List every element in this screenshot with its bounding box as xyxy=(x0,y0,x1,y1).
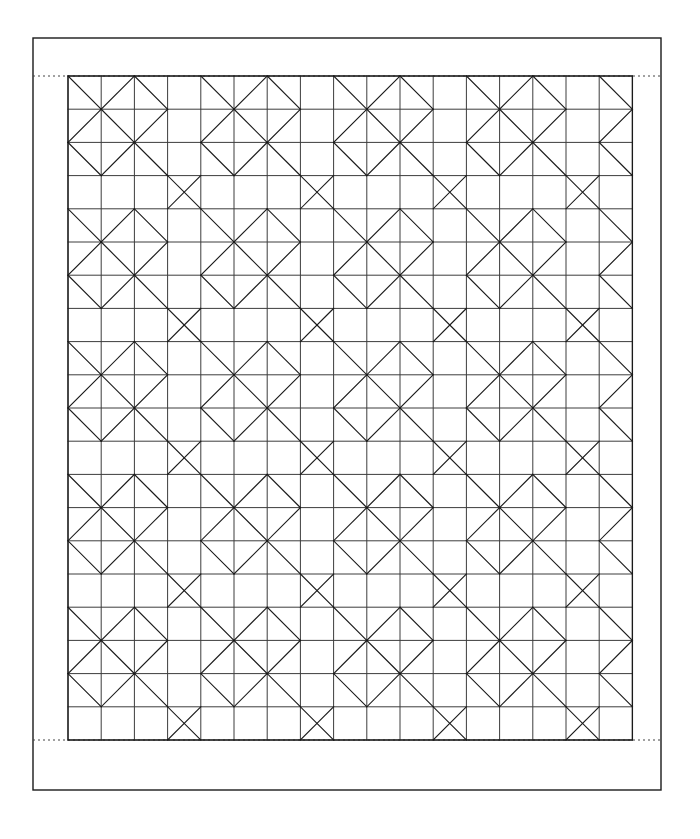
pattern-grid-lines xyxy=(68,76,632,740)
quilt-pattern-figure xyxy=(0,0,700,839)
figure-page xyxy=(0,0,700,839)
